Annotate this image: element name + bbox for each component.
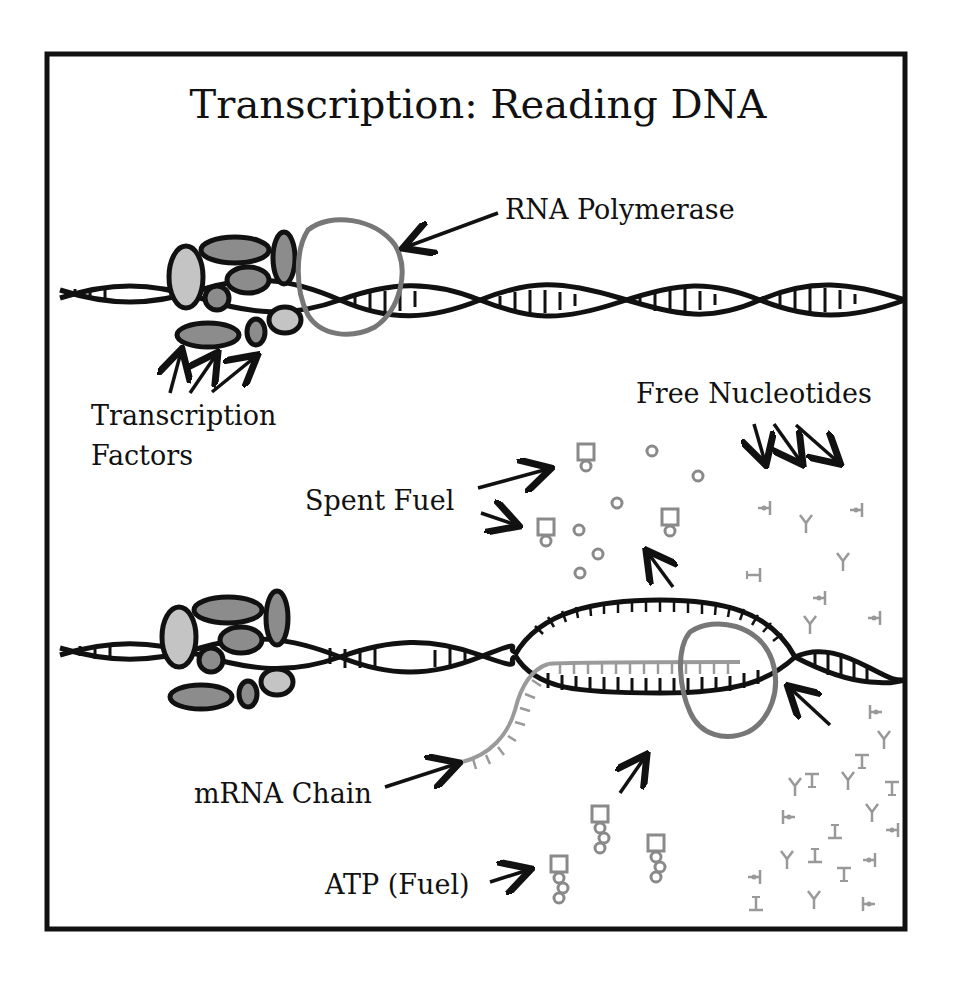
label-atp-fuel: ATP (Fuel) <box>324 869 470 900</box>
diagram-title: Transcription: Reading DNA <box>190 81 768 127</box>
arrow-transcription-factor-3 <box>212 357 255 392</box>
arrow-transcription-factor-2 <box>190 355 216 393</box>
arrow-free-nucleotides-2 <box>774 424 801 462</box>
label-free-nucleotides: Free Nucleotides <box>636 378 872 409</box>
transcription-diagram: Transcription: Reading DNA RNA Polymeras… <box>0 0 957 986</box>
label-rna-polymerase: RNA Polymerase <box>505 194 735 225</box>
arrow-free-nucleotides-1 <box>754 424 765 462</box>
arrow-spent-fuel-2 <box>481 513 516 525</box>
free-nucleotides-upper <box>747 501 880 634</box>
arrow-rna-polymerase <box>406 213 498 247</box>
transcription-factor-complex-top <box>169 232 301 347</box>
diagram-frame <box>47 54 905 929</box>
transcription-bubble <box>515 600 795 693</box>
arrow-spent-fuel-1 <box>478 469 548 488</box>
arrow-free-nucleotides-3 <box>796 425 838 462</box>
arrow-atp-fuel <box>490 870 528 882</box>
arrow-spent-fuel-exit <box>648 553 673 587</box>
arrow-nucleotides-enter <box>790 688 830 725</box>
label-mrna-chain: mRNA Chain <box>194 778 372 809</box>
mrna-chain <box>462 662 740 769</box>
arrow-atp-enter <box>620 757 645 793</box>
label-transcription-factors-line2: Factors <box>91 440 193 471</box>
atp-molecules <box>551 806 665 903</box>
rna-polymerase-top <box>298 220 402 334</box>
transcription-factor-complex-bottom <box>162 591 293 709</box>
label-spent-fuel: Spent Fuel <box>305 485 454 516</box>
arrow-mrna-chain <box>385 764 456 787</box>
label-transcription-factors-line1: Transcription <box>91 400 276 431</box>
arrow-transcription-factor-1 <box>170 352 181 393</box>
free-nucleotides-lower <box>748 705 899 911</box>
spent-fuel-molecules <box>538 444 703 578</box>
